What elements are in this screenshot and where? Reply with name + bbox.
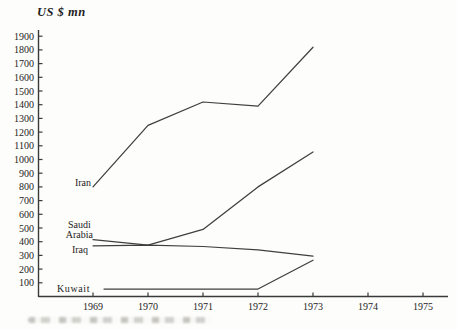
y-tick-label: 1800 [14, 44, 34, 55]
series-label-iraq: Iraq [72, 245, 88, 255]
x-tick-label: 1974 [358, 301, 378, 312]
y-tick-label: 800 [19, 181, 34, 192]
y-tick-label: 1700 [14, 58, 34, 69]
chart-canvas: 1900180017001600150014001300120011001000… [0, 0, 457, 329]
series-label-saudi-arabia: SaudiArabia [66, 220, 93, 239]
y-tick-label: 1000 [14, 154, 34, 165]
series-label-kuwait: Kuwait [57, 284, 90, 294]
y-tick-label: 300 [19, 250, 34, 261]
cutoff-caption-scan-artifact [28, 317, 213, 323]
x-tick-label: 1971 [193, 301, 213, 312]
series-line-saudi-arabia [93, 152, 313, 245]
y-tick-label: 400 [19, 236, 34, 247]
y-tick-label: 600 [19, 209, 34, 220]
y-tick-label: 1500 [14, 86, 34, 97]
y-tick-label: 1600 [14, 72, 34, 83]
y-tick-label: 1300 [14, 113, 34, 124]
chart: US $ mn 19001800170016001500140013001200… [0, 0, 457, 329]
series-label-iran: Iran [75, 178, 91, 188]
x-tick-label: 1972 [248, 301, 268, 312]
y-tick-label: 700 [19, 195, 34, 206]
y-tick-label: 1100 [14, 140, 34, 151]
y-tick-label: 1900 [14, 31, 34, 42]
y-tick-label: 1400 [14, 99, 34, 110]
x-tick-label: 1970 [138, 301, 158, 312]
x-tick-label: 1969 [83, 301, 103, 312]
series-line-kuwait [104, 260, 313, 289]
x-tick-label: 1975 [413, 301, 433, 312]
x-tick-label: 1973 [303, 301, 323, 312]
y-tick-label: 500 [19, 223, 34, 234]
y-tick-label: 100 [19, 277, 34, 288]
series-line-iran [93, 47, 313, 187]
y-tick-label: 900 [19, 168, 34, 179]
y-tick-label: 1200 [14, 127, 34, 138]
series-line-iraq [93, 245, 313, 256]
y-tick-label: 200 [19, 264, 34, 275]
